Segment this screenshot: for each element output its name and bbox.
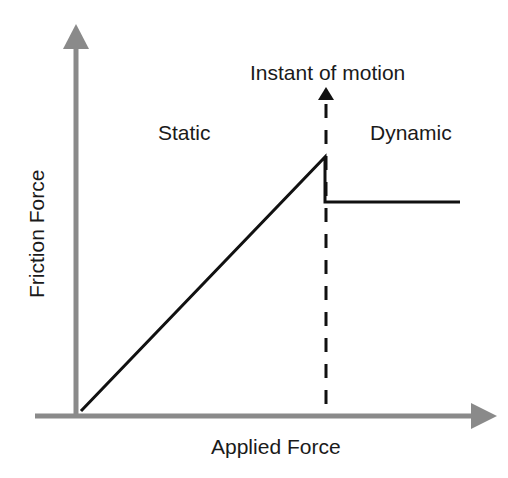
instant-of-motion-label: Instant of motion xyxy=(250,62,405,83)
friction-diagram: Friction Force Applied Force Static Dyna… xyxy=(0,0,508,478)
y-axis-arrow-icon xyxy=(63,24,89,49)
instant-arrow-icon xyxy=(318,87,334,100)
x-axis-label: Applied Force xyxy=(211,436,341,457)
x-axis-arrow-icon xyxy=(471,403,497,429)
y-axis-label: Friction Force xyxy=(26,170,47,298)
x-axis xyxy=(35,403,497,429)
y-axis xyxy=(63,24,89,417)
static-region-label: Static xyxy=(158,122,211,143)
friction-curve xyxy=(81,157,460,411)
dynamic-region-label: Dynamic xyxy=(370,122,452,143)
instant-of-motion-line xyxy=(318,87,334,412)
